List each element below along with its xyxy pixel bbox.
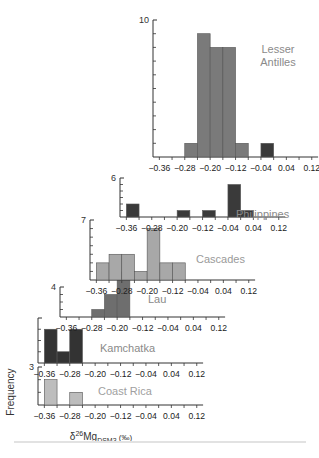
x-tick-label: −0.20	[84, 369, 106, 379]
histogram-bar	[203, 211, 216, 218]
histogram-bar	[185, 143, 198, 157]
x-tick-label: −0.04	[157, 323, 179, 333]
x-tick-label: 0.04	[278, 163, 295, 173]
histogram-bar	[261, 143, 274, 157]
panel-label: Antilles	[260, 56, 296, 68]
x-tick-label: −0.36	[55, 323, 77, 333]
y-max-label: 4	[51, 282, 56, 292]
x-tick-label: −0.36	[115, 223, 137, 233]
x-tick-label: −0.28	[59, 369, 81, 379]
x-tick-label: 0.12	[270, 223, 287, 233]
histogram-bar	[70, 329, 83, 363]
x-tick-label: 0.04	[163, 411, 180, 421]
panel-label: Coast Rica	[98, 385, 153, 397]
y-axis-title: Frequency	[5, 368, 16, 415]
panel-label: Lesser	[261, 43, 294, 55]
histogram-bar	[177, 211, 190, 218]
x-tick-label: −0.36	[33, 369, 55, 379]
panel-label: Kamchatka	[100, 342, 156, 354]
x-tick-label: 0.12	[188, 369, 205, 379]
histogram-canvas: 3−0.36−0.28−0.20−0.12−0.040.040.12Coast …	[0, 0, 319, 458]
histogram-bar	[92, 310, 105, 318]
panel-lau: 4−0.36−0.28−0.20−0.12−0.040.040.12Lau	[51, 272, 227, 333]
histogram-bar	[210, 47, 223, 157]
x-tick-label: −0.28	[111, 286, 133, 296]
x-tick-label: −0.36	[33, 411, 55, 421]
x-tick-label: 0.12	[210, 323, 227, 333]
panel-lesser-antilles: 10−0.36−0.28−0.20−0.12−0.040.040.12Lesse…	[139, 15, 319, 173]
x-tick-label: −0.28	[174, 163, 196, 173]
x-tick-label: −0.28	[59, 411, 81, 421]
histogram-bar	[96, 263, 109, 280]
x-tick-label: −0.20	[166, 223, 188, 233]
x-tick-label: −0.20	[136, 286, 158, 296]
histogram-bar	[57, 352, 70, 363]
x-tick-label: −0.20	[106, 323, 128, 333]
histogram-bar	[147, 229, 160, 280]
x-tick-label: −0.04	[217, 223, 239, 233]
x-tick-label: 0.12	[303, 163, 319, 173]
x-tick-label: −0.04	[135, 369, 157, 379]
x-tick-label: −0.04	[250, 163, 272, 173]
y-max-label: 7	[81, 215, 86, 225]
histogram-bar	[109, 254, 122, 280]
x-tick-label: −0.20	[199, 163, 221, 173]
x-tick-label: −0.36	[85, 286, 107, 296]
y-max-label: 10	[139, 15, 149, 25]
histogram-bar	[44, 380, 57, 405]
bottom-divider	[14, 441, 306, 443]
x-tick-label: −0.12	[110, 411, 132, 421]
histogram-bar	[134, 271, 147, 280]
panel-label: Philippines	[236, 208, 290, 220]
histogram-bar	[122, 254, 135, 280]
histogram-bar	[160, 263, 173, 280]
x-tick-label: −0.04	[135, 411, 157, 421]
histogram-bar	[70, 392, 83, 405]
x-tick-label: 0.04	[163, 369, 180, 379]
histogram-bar	[104, 295, 117, 318]
x-tick-label: −0.12	[110, 369, 132, 379]
x-tick-label: 0.12	[188, 411, 205, 421]
x-tick-label: −0.20	[84, 411, 106, 421]
histogram-bar	[223, 47, 236, 157]
x-tick-label: −0.28	[141, 223, 163, 233]
x-tick-label: −0.12	[225, 163, 247, 173]
stacked-histogram-figure: 3−0.36−0.28−0.20−0.12−0.040.040.12Coast …	[0, 0, 319, 458]
x-tick-label: −0.12	[162, 286, 184, 296]
histogram-bar	[236, 143, 249, 157]
panel-label: Cascades	[196, 253, 245, 265]
x-tick-label: 0.12	[240, 286, 257, 296]
x-tick-label: −0.12	[132, 323, 154, 333]
y-max-label: 6	[111, 173, 116, 183]
x-tick-label: 0.04	[245, 223, 262, 233]
x-tick-label: 0.04	[215, 286, 232, 296]
x-tick-label: 0.04	[185, 323, 202, 333]
x-tick-label: −0.04	[187, 286, 209, 296]
x-tick-label: −0.28	[81, 323, 103, 333]
histogram-bar	[197, 34, 210, 157]
histogram-bar	[173, 263, 186, 280]
histogram-bar	[126, 204, 139, 217]
x-tick-label: −0.36	[148, 163, 170, 173]
x-tick-label: −0.12	[192, 223, 214, 233]
histogram-bar	[44, 329, 57, 363]
panel-philippines: 6−0.36−0.28−0.20−0.12−0.040.040.12Philip…	[111, 173, 290, 233]
